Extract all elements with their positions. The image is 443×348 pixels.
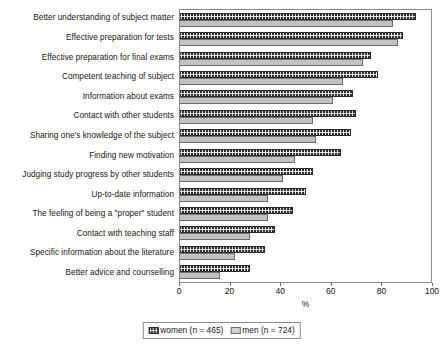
x-tick-label: 100 (425, 286, 439, 296)
bar-women (180, 168, 313, 175)
bar-groups-container (180, 10, 431, 282)
horizontal-bar-chart: Better understanding of subject matterEf… (0, 0, 443, 348)
x-axis: 020406080100 (179, 283, 432, 299)
legend-entry-women: women (n = 465) (148, 325, 223, 335)
plot-area (179, 9, 432, 283)
bar-group (180, 10, 431, 29)
category-label: Sharing one's knowledge of the subject (0, 126, 177, 146)
legend-swatch-men-icon (230, 327, 240, 334)
category-label: Better advice and counselling (0, 264, 177, 284)
bar-group (180, 146, 431, 165)
category-label: Finding new motivation (0, 146, 177, 166)
bar-women (180, 149, 341, 156)
bar-women (180, 207, 293, 214)
bar-men (180, 59, 363, 66)
category-label: Effective preparation for tests (0, 29, 177, 49)
bar-women (180, 188, 306, 195)
legend-label-men: men (n = 724) (242, 325, 294, 335)
category-label: Specific information about the literatur… (0, 244, 177, 264)
bar-men (180, 97, 333, 104)
legend-label-women: women (n = 465) (160, 325, 223, 335)
bar-women (180, 90, 353, 97)
legend-entry-men: men (n = 724) (230, 325, 294, 335)
legend-swatch-women-icon (148, 327, 158, 334)
category-label: Better understanding of subject matter (0, 9, 177, 29)
category-label: Competent teaching of subject (0, 68, 177, 88)
bar-men (180, 253, 235, 260)
bar-group (180, 243, 431, 262)
x-tick-label: 0 (177, 286, 182, 296)
bar-group (180, 49, 431, 68)
bar-group (180, 185, 431, 204)
bar-men (180, 175, 283, 182)
category-label: Judging study progress by other students (0, 166, 177, 186)
category-label: Contact with other students (0, 107, 177, 127)
bar-men (180, 39, 398, 46)
bar-women (180, 13, 416, 20)
chart-legend: women (n = 465) men (n = 724) (142, 322, 300, 339)
bar-women (180, 71, 378, 78)
bar-men (180, 136, 316, 143)
category-label: Information about exams (0, 87, 177, 107)
x-tick-label: 80 (377, 286, 386, 296)
category-label: The feeling of being a "proper" student (0, 205, 177, 225)
category-label: Contact with teaching staff (0, 224, 177, 244)
x-tick-label: 40 (275, 286, 284, 296)
bar-group (180, 107, 431, 126)
bar-group (180, 262, 431, 281)
category-label: Effective preparation for final exams (0, 48, 177, 68)
bar-men (180, 156, 295, 163)
bar-men (180, 233, 250, 240)
bar-men (180, 272, 220, 279)
bar-group (180, 29, 431, 48)
bar-women (180, 110, 356, 117)
category-label: Up-to-date information (0, 185, 177, 205)
bar-group (180, 68, 431, 87)
bar-women (180, 32, 403, 39)
bar-women (180, 265, 250, 272)
bar-men (180, 214, 268, 221)
category-labels-axis: Better understanding of subject matterEf… (0, 9, 177, 283)
bar-men (180, 20, 393, 27)
bar-women (180, 52, 371, 59)
x-axis-title: % (179, 299, 432, 309)
bar-men (180, 117, 313, 124)
bar-women (180, 246, 265, 253)
bar-group (180, 224, 431, 243)
x-tick-label: 20 (225, 286, 234, 296)
bar-women (180, 226, 275, 233)
bar-group (180, 165, 431, 184)
bar-group (180, 127, 431, 146)
bar-group (180, 88, 431, 107)
x-tick-label: 60 (326, 286, 335, 296)
bar-men (180, 78, 343, 85)
bar-group (180, 204, 431, 223)
bar-women (180, 129, 351, 136)
bar-men (180, 195, 268, 202)
